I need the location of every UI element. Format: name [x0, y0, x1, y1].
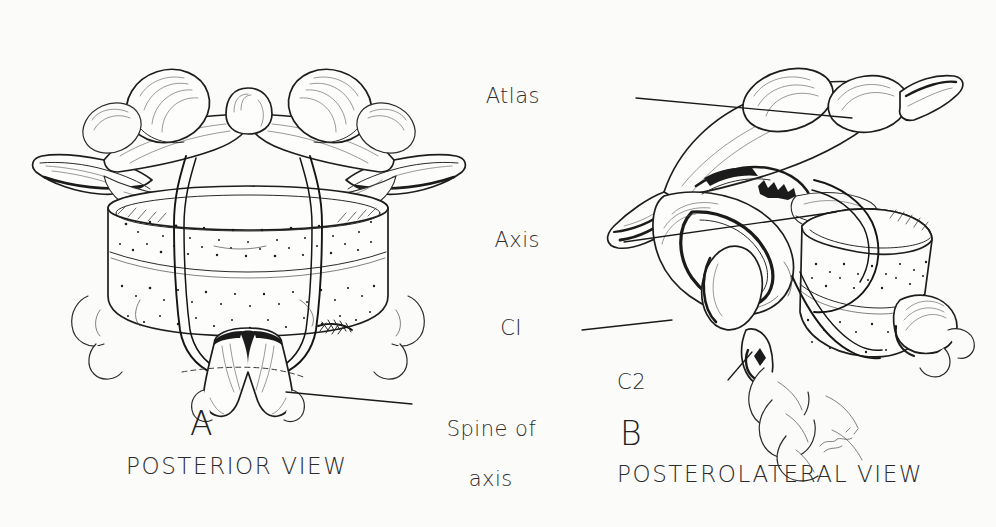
- callout-axis: Axis: [444, 228, 540, 253]
- atlas-posterior-arch: [33, 59, 466, 195]
- leader-c1: [582, 320, 672, 330]
- anatomical-figure: Spine of axis A POSTERIOR VIEW: [0, 0, 996, 527]
- panel-b-posterolateral-view: [496, 0, 996, 527]
- artist-signature: [820, 428, 858, 452]
- callout-atlas: Atlas: [444, 84, 540, 109]
- leader-spine-of-axis: [286, 392, 412, 404]
- panel-b-illustration: [496, 0, 996, 527]
- panel-b-view-caption: POSTEROLATERAL VIEW: [617, 461, 923, 487]
- panel-a-view-caption: POSTERIOR VIEW: [126, 453, 348, 479]
- panel-b-letter: B: [620, 414, 642, 453]
- callout-c1: CI: [450, 316, 522, 341]
- callout-c2: C2: [617, 370, 646, 395]
- panel-a-letter: A: [190, 404, 213, 443]
- bone-graft-block: [108, 186, 388, 336]
